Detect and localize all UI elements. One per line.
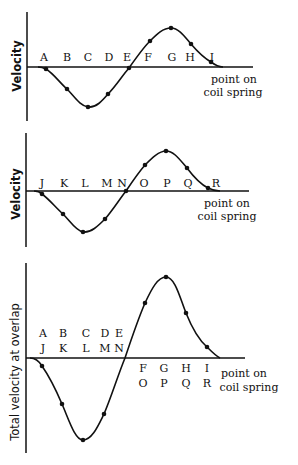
point-letters: A B C D E F G H I [39,51,214,64]
label-g: G [168,51,177,64]
point-b-k [60,402,65,407]
point-g [169,26,174,31]
panel-superposition: Total velocity at overlap A B C D E J K … [8,263,278,453]
x-axis-label-line1: point on [204,197,250,210]
label-a: A [39,51,49,64]
point-b [65,87,70,92]
point-f [148,39,153,44]
point-c-l [81,438,86,443]
x-axis-label-line1: point on [211,73,257,86]
panel-wave-2: Velocity J K L M N O P Q R point on coil… [9,133,256,247]
label-q: Q [183,177,192,190]
point-c [86,105,91,110]
label-c: C [84,51,92,64]
label-o: O [138,377,147,390]
label-r: R [203,377,212,390]
label-b: B [59,327,67,340]
label-i: I [210,51,214,64]
label-r: R [212,177,221,190]
label-j: J [39,177,44,190]
label-p: P [163,177,171,190]
y-axis-label: Total velocity at overlap [8,303,22,442]
point-a [44,67,49,72]
point-f-o [143,301,148,306]
point-letters: J K L M N O P Q R [39,177,221,190]
label-e: E [115,327,123,340]
point-l [81,230,86,235]
point-a-j [40,364,45,369]
x-axis-label-line2: coil spring [220,381,279,394]
x-axis-label-line2: coil spring [198,210,257,223]
point-h [189,42,194,47]
label-a: A [38,327,48,340]
point-d [106,92,111,97]
point-j [40,192,45,197]
point-h-q [184,311,189,316]
label-f: F [139,362,147,375]
x-axis-label-line2: coil spring [204,86,263,99]
label-m: M [101,177,112,190]
label-h: H [185,51,195,64]
label-n: N [117,177,127,190]
label-e: E [123,51,131,64]
label-q: Q [181,377,190,390]
y-axis-label: Velocity [10,40,24,92]
point-e [127,66,132,71]
label-p: P [160,377,168,390]
label-b: B [63,51,71,64]
label-d: D [105,51,114,64]
label-f: F [144,51,152,64]
point-letters-left: A B C D E J K L M N [38,327,124,355]
label-l: L [81,177,89,190]
point-m [103,217,108,222]
point-q [185,166,190,171]
point-i-r [205,345,210,350]
point-r [206,186,211,191]
panel-wave-1: Velocity A B C D E F G H I point on coil… [10,12,262,121]
label-n: N [114,342,124,355]
point-d-m [102,412,107,417]
label-d: D [101,327,110,340]
label-g: G [160,362,169,375]
label-l: L [82,342,90,355]
y-axis-label: Velocity [9,168,23,220]
label-m: M [99,342,110,355]
point-o [143,163,148,168]
label-c: C [82,327,90,340]
label-h: H [181,362,191,375]
label-o: O [139,177,148,190]
label-k: K [60,177,69,190]
label-k: K [59,342,68,355]
x-axis-label-line1: point on [221,367,267,380]
point-p [164,149,169,154]
label-i: I [205,362,209,375]
point-letters-right: F G H I O P Q R [138,362,211,390]
wave-superposition-diagram: Velocity A B C D E F G H I point on coil… [0,0,298,465]
label-j: J [40,342,45,355]
point-k [61,212,66,217]
point-g-p [164,275,169,280]
